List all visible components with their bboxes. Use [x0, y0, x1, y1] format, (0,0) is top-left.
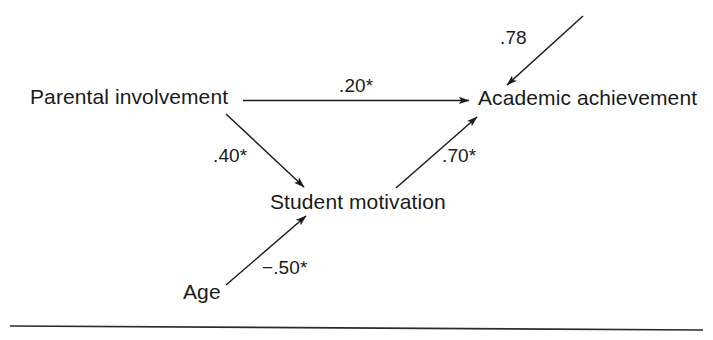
path-diagram-figure: Parental involvement Academic achievemen…: [0, 0, 713, 340]
bottom-rule: [10, 326, 703, 330]
node-label-academic-achievement: Academic achievement: [478, 87, 697, 108]
node-label-parental-involvement: Parental involvement: [30, 86, 228, 107]
coefficient-label-disturbance: .78: [500, 28, 527, 47]
coefficient-label-parental-to-academic: .20*: [339, 76, 373, 95]
coefficient-label-parental-to-student: .40*: [213, 146, 247, 165]
coefficient-label-student-to-academic: .70*: [442, 146, 476, 165]
path-arrows-layer: [0, 0, 713, 340]
node-label-student-motivation: Student motivation: [270, 191, 446, 212]
coefficient-label-age-to-student: −.50*: [262, 258, 307, 277]
node-label-age: Age: [183, 281, 221, 302]
